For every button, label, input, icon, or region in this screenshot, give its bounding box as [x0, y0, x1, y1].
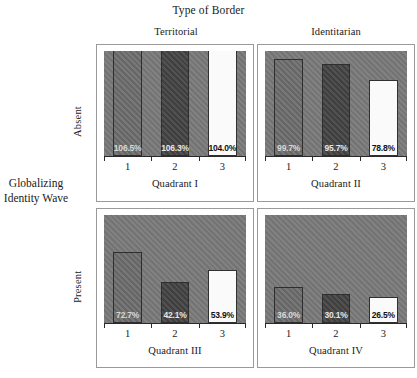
row-super-label: Globalizing Identity Wave	[0, 176, 72, 206]
column-title-territorial: Territorial	[96, 26, 256, 37]
x-tick-label: 1	[104, 328, 151, 339]
bar-value-label: 78.8%	[372, 143, 395, 155]
bar-group-quadrant-iv: 36.0% 30.1% 26.5%	[265, 215, 407, 323]
bar-slot: 30.1%	[312, 215, 359, 323]
bar: 36.0%	[274, 287, 302, 323]
bar-slot: 26.5%	[360, 215, 407, 323]
row-title-absent: Absent	[72, 48, 90, 196]
bar-slot: 53.9%	[199, 215, 246, 323]
panel-bar-chart-figure: Type of Border Territorial Identitarian …	[0, 0, 417, 378]
bar-value-label: 36.0%	[277, 310, 300, 322]
row-title-present: Present	[72, 212, 90, 362]
figure-top-title: Type of Border	[0, 4, 417, 16]
bar: 53.9%	[208, 270, 236, 323]
panel-caption: Quadrant IV	[258, 345, 414, 356]
bar-slot: 72.7%	[104, 215, 151, 323]
bar-slot: 106.5%	[104, 51, 151, 156]
bar-slot: 95.7%	[312, 51, 359, 156]
bar-group-quadrant-iii: 72.7% 42.1% 53.9%	[104, 215, 246, 323]
bar: 72.7%	[113, 252, 141, 323]
panel-quadrant-ii: 99.7% 95.7% 78.8%	[257, 44, 415, 202]
x-tick-label: 1	[265, 161, 312, 172]
bar-value-label: 106.3%	[161, 143, 189, 155]
x-tick-label: 3	[199, 161, 246, 172]
bar-slot: 78.8%	[360, 51, 407, 156]
x-tick-label: 3	[360, 328, 407, 339]
x-tick-label: 2	[151, 161, 198, 172]
bar-slot: 106.3%	[151, 51, 198, 156]
plot-area-quadrant-ii: 99.7% 95.7% 78.8%	[265, 51, 407, 156]
x-axis-quadrant-ii	[265, 156, 407, 157]
bar-value-label: 72.7%	[116, 310, 139, 322]
bar-value-label: 42.1%	[163, 310, 186, 322]
bar: 106.3%	[161, 51, 189, 156]
x-tick-labels-quadrant-i: 1 2 3	[104, 161, 246, 172]
bar-slot: 42.1%	[151, 215, 198, 323]
panel-quadrant-iii: 72.7% 42.1% 53.9%	[96, 208, 254, 368]
x-tick-label: 2	[312, 161, 359, 172]
bar-value-label: 30.1%	[324, 310, 347, 322]
plot-area-quadrant-i: 106.5% 106.3% 104.0%	[104, 51, 246, 156]
x-tick-label: 1	[104, 161, 151, 172]
bar: 95.7%	[322, 64, 350, 156]
x-tick-label: 3	[199, 328, 246, 339]
bar: 26.5%	[369, 297, 397, 323]
bar-slot: 104.0%	[199, 51, 246, 156]
panel-caption: Quadrant II	[258, 178, 414, 189]
bar-group-quadrant-ii: 99.7% 95.7% 78.8%	[265, 51, 407, 156]
column-title-identitarian: Identitarian	[256, 26, 416, 37]
bar-value-label: 53.9%	[211, 310, 234, 322]
x-tick-label: 1	[265, 328, 312, 339]
row-super-label-line2: Identity Wave	[0, 191, 72, 206]
x-axis-quadrant-iv	[265, 323, 407, 324]
x-tick-label: 2	[151, 328, 198, 339]
x-tick-labels-quadrant-iii: 1 2 3	[104, 328, 246, 339]
bar: 42.1%	[161, 282, 189, 323]
x-axis-quadrant-i	[104, 156, 246, 157]
bar: 30.1%	[322, 294, 350, 323]
bar-value-label: 104.0%	[209, 143, 237, 155]
x-tick-labels-quadrant-iv: 1 2 3	[265, 328, 407, 339]
plot-area-quadrant-iv: 36.0% 30.1% 26.5%	[265, 215, 407, 323]
panel-quadrant-iv: 36.0% 30.1% 26.5%	[257, 208, 415, 368]
bar-value-label: 95.7%	[324, 143, 347, 155]
panel-caption: Quadrant I	[97, 178, 253, 189]
bar-slot: 36.0%	[265, 215, 312, 323]
bar-value-label: 26.5%	[372, 310, 395, 322]
x-tick-labels-quadrant-ii: 1 2 3	[265, 161, 407, 172]
x-tick-label: 2	[312, 328, 359, 339]
panel-quadrant-i: 106.5% 106.3% 104.0%	[96, 44, 254, 202]
plot-area-quadrant-iii: 72.7% 42.1% 53.9%	[104, 215, 246, 323]
bar: 104.0%	[208, 51, 236, 156]
bar: 106.5%	[113, 51, 141, 156]
x-tick-label: 3	[360, 161, 407, 172]
x-axis-quadrant-iii	[104, 323, 246, 324]
bar-value-label: 99.7%	[277, 143, 300, 155]
bar-value-label: 106.5%	[114, 143, 142, 155]
panel-caption: Quadrant III	[97, 345, 253, 356]
bar-slot: 99.7%	[265, 51, 312, 156]
row-super-label-line1: Globalizing	[0, 176, 72, 191]
bar-group-quadrant-i: 106.5% 106.3% 104.0%	[104, 51, 246, 156]
bar: 99.7%	[274, 59, 302, 156]
bar: 78.8%	[369, 80, 397, 156]
